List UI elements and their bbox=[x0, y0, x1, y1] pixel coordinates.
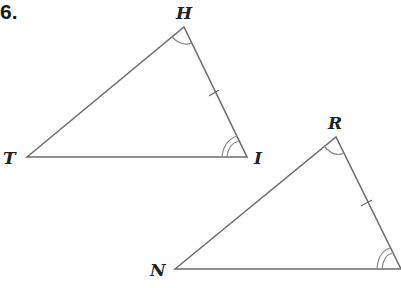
angle-i-arc-inner bbox=[227, 141, 239, 157]
angle-i-arc-outer bbox=[222, 136, 237, 157]
vertex-label-n: N bbox=[150, 260, 166, 280]
vertex-label-t: T bbox=[3, 148, 16, 168]
vertex-label-i: I bbox=[254, 148, 262, 168]
angle-br-arc-inner bbox=[382, 253, 392, 269]
vertex-label-h: H bbox=[176, 3, 192, 23]
angle-br-arc-outer bbox=[377, 248, 390, 269]
triangle-thi bbox=[27, 27, 247, 157]
vertex-label-r: R bbox=[328, 113, 342, 133]
triangles-diagram bbox=[0, 0, 401, 288]
